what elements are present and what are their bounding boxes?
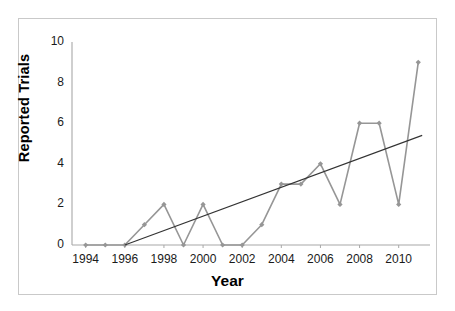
y-tick-label: 4	[38, 156, 64, 170]
x-tick-label: 1996	[103, 252, 147, 266]
x-axis-title: Year	[0, 272, 455, 290]
data-point-marker	[337, 202, 342, 207]
data-point-marker	[416, 60, 421, 65]
x-tick-label: 2004	[259, 252, 303, 266]
data-point-marker	[357, 121, 362, 126]
data-point-marker	[83, 242, 88, 247]
x-tick-label: 2006	[298, 252, 342, 266]
x-tick-label: 2002	[220, 252, 264, 266]
y-axis-title: Reported Trials	[16, 48, 32, 168]
y-tick-label: 0	[38, 237, 64, 251]
data-point-marker	[200, 202, 205, 207]
x-tick-label: 2010	[377, 252, 421, 266]
x-tick-label: 1998	[142, 252, 186, 266]
x-tick-label: 2000	[181, 252, 225, 266]
data-series-markers	[83, 60, 421, 248]
data-point-marker	[220, 242, 225, 247]
x-tick-label: 2008	[338, 252, 382, 266]
y-tick-label: 2	[38, 196, 64, 210]
y-tick-label: 6	[38, 115, 64, 129]
chart-figure: 0 2 4 6 8 10 1994 1996 1998 2000 2002 20…	[0, 0, 455, 311]
trend-line	[125, 135, 422, 245]
data-point-marker	[181, 242, 186, 247]
data-series-line	[86, 62, 419, 245]
data-point-marker	[103, 242, 108, 247]
x-tick-label: 1994	[64, 252, 108, 266]
data-point-marker	[396, 202, 401, 207]
data-point-marker	[377, 121, 382, 126]
y-tick-label: 8	[38, 75, 64, 89]
data-point-marker	[279, 182, 284, 187]
y-tick-label: 10	[38, 34, 64, 48]
axis-lines	[72, 42, 430, 245]
